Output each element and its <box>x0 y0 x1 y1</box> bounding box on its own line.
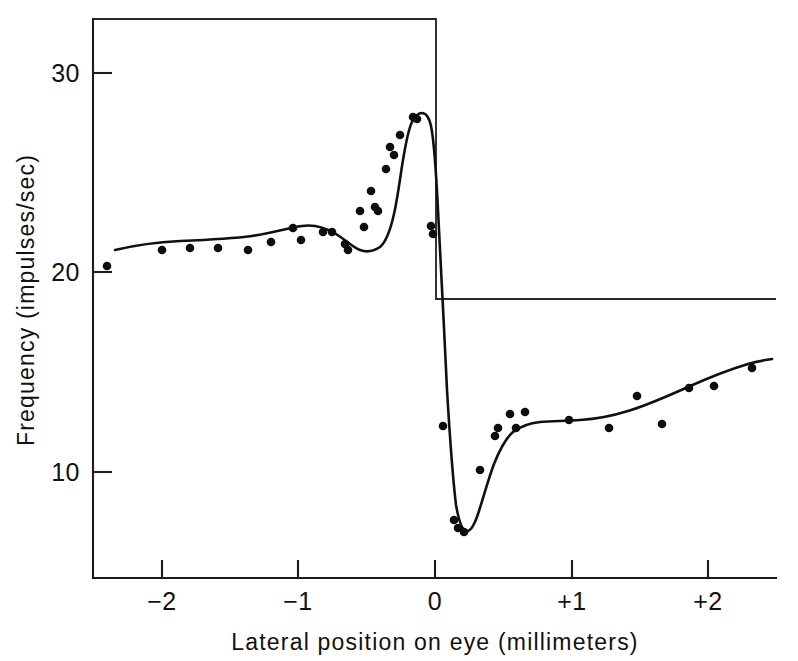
y-ticklabel-30: 30 <box>51 59 80 87</box>
x-axis-title: Lateral position on eye (millimeters) <box>231 629 638 655</box>
chart-svg: 30 20 10 −2 −1 0 +1 +2 Lateral position … <box>0 0 798 661</box>
data-point <box>494 424 503 433</box>
data-point <box>267 238 276 247</box>
data-point <box>382 165 391 174</box>
data-point <box>344 246 353 255</box>
data-point <box>512 424 521 433</box>
data-point <box>186 244 195 253</box>
data-point <box>491 432 500 441</box>
data-point <box>289 224 298 233</box>
data-point <box>367 187 376 196</box>
data-point <box>439 422 448 431</box>
data-point <box>605 424 614 433</box>
x-ticklabel-plus2: +2 <box>693 587 723 615</box>
y-ticklabel-20: 20 <box>51 258 80 286</box>
data-point <box>319 228 328 237</box>
data-point <box>396 131 405 140</box>
data-point <box>685 384 694 393</box>
x-ticklabel-minus1: −1 <box>283 587 313 615</box>
data-point <box>103 262 112 271</box>
x-ticklabel-zero: 0 <box>428 587 442 615</box>
data-point <box>244 246 253 255</box>
data-point <box>374 207 383 216</box>
y-axis-title: Frequency (impulses/sec) <box>13 154 39 446</box>
data-point <box>427 222 436 231</box>
data-point <box>748 364 757 373</box>
data-point <box>460 528 469 537</box>
data-point <box>360 223 369 232</box>
data-point <box>450 516 459 525</box>
data-point <box>356 207 365 216</box>
figure-panel: 30 20 10 −2 −1 0 +1 +2 Lateral position … <box>0 0 798 661</box>
data-point <box>386 143 395 152</box>
data-point <box>297 236 306 245</box>
y-ticklabel-10: 10 <box>51 458 80 486</box>
data-point <box>413 115 422 124</box>
data-point <box>521 408 530 417</box>
data-point <box>158 246 167 255</box>
x-ticklabel-plus1: +1 <box>557 587 587 615</box>
fit-curve-path <box>115 113 772 531</box>
data-point <box>390 151 399 160</box>
fitted-response-curve <box>115 113 772 531</box>
data-point-group <box>103 113 757 537</box>
data-point <box>214 244 223 253</box>
data-point <box>658 420 667 429</box>
x-ticklabel-minus2: −2 <box>147 587 177 615</box>
data-point <box>429 230 438 239</box>
data-point <box>506 410 515 419</box>
tick-label-group: 30 20 10 −2 −1 0 +1 +2 <box>51 59 723 615</box>
data-point <box>476 466 485 475</box>
data-point <box>565 416 574 425</box>
data-point <box>328 228 337 237</box>
data-point <box>633 392 642 401</box>
data-point <box>710 382 719 391</box>
